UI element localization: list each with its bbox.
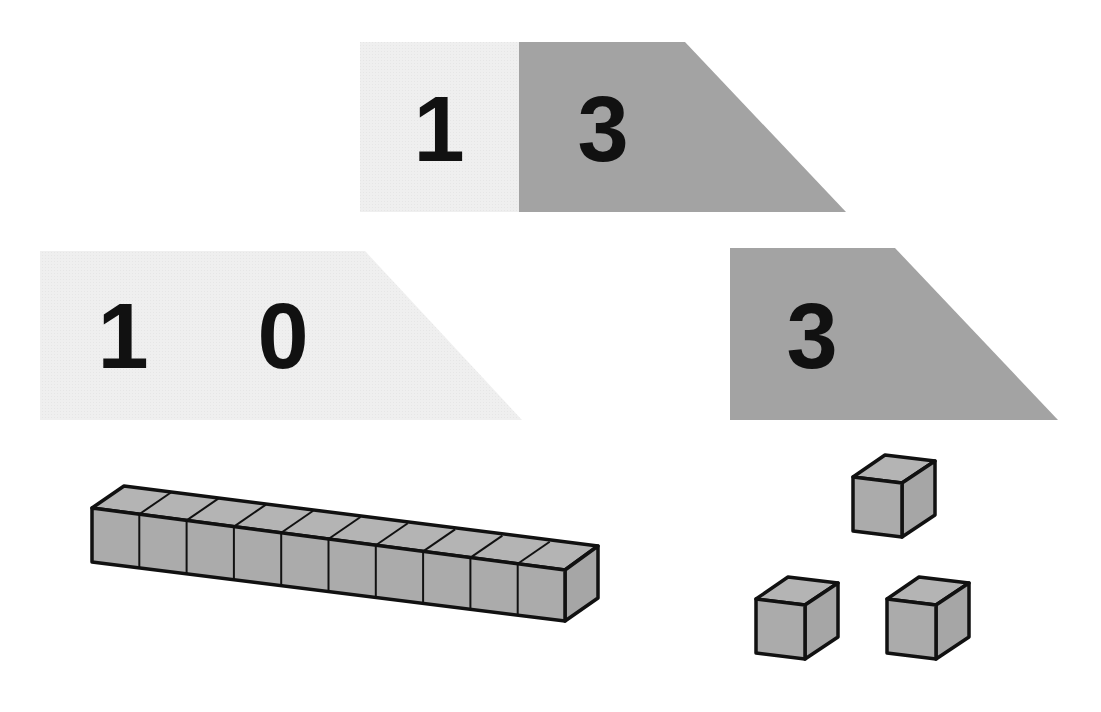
combined-arrow-card[interactable]: 1 3	[360, 42, 846, 212]
tens-arrow-card[interactable]: 1 0	[40, 251, 522, 420]
unit-cube-top	[853, 455, 935, 537]
place-value-diagram: 1 3 1 0 3	[0, 0, 1101, 712]
ones-card-digit: 3	[786, 285, 837, 387]
tens-card-digit-2: 0	[257, 285, 308, 387]
ten-rod-block	[92, 486, 598, 621]
combined-ones-digit: 3	[577, 78, 628, 180]
combined-tens-digit: 1	[413, 78, 464, 180]
unit-cube-bottom-left	[756, 577, 838, 659]
ones-arrow-card[interactable]: 3	[730, 248, 1058, 420]
unit-cube-bottom-right	[887, 577, 969, 659]
combined-card-ones-part	[519, 42, 846, 212]
tens-card-digit-1: 1	[97, 285, 148, 387]
ones-card-shape	[730, 248, 1058, 420]
